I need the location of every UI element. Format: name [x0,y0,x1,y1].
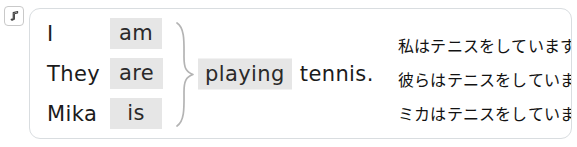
subject-pronoun: They [47,62,109,86]
subject-pronoun: I [47,22,109,46]
translation-japanese: 彼らはテニスをしています。 [398,67,572,91]
translation-japanese: 私はテニスをしています。 [398,33,572,57]
predicate-phrase: playing tennis. [198,58,374,89]
translation-japanese: ミカはテニスをしています。 [398,101,572,125]
be-verb-highlight: are [110,58,163,89]
predicate-object: tennis. [300,61,374,85]
audio-play-button[interactable] [4,6,24,26]
sentence-pattern-card: I am They are Mika is playing tennis. 私は [29,8,572,139]
grammar-card-root: I am They are Mika is playing tennis. 私は [0,0,577,147]
be-verb-highlight: is [110,98,162,129]
subject-pronoun: Mika [47,102,109,126]
present-participle-highlight: playing [198,58,292,89]
music-note-icon [8,10,21,23]
be-verb-highlight: am [110,18,162,49]
